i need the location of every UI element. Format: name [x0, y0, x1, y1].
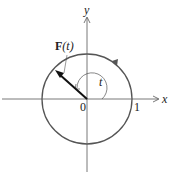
diagram-canvas: F(t) t 0 1 x y	[0, 0, 176, 179]
vector-label: F(t)	[55, 39, 74, 53]
vector-label-bold: F	[55, 39, 62, 53]
unit-circle-diagram: F(t) t 0 1 x y	[0, 0, 176, 179]
x-axis-label: x	[161, 92, 168, 106]
y-axis	[84, 17, 90, 172]
label-leader-line	[64, 55, 67, 73]
y-axis-label: y	[83, 3, 90, 17]
unit-label: 1	[134, 100, 140, 114]
vector-f	[59, 74, 87, 99]
vector-label-arg: (t)	[62, 39, 73, 53]
origin-label: 0	[80, 100, 86, 114]
